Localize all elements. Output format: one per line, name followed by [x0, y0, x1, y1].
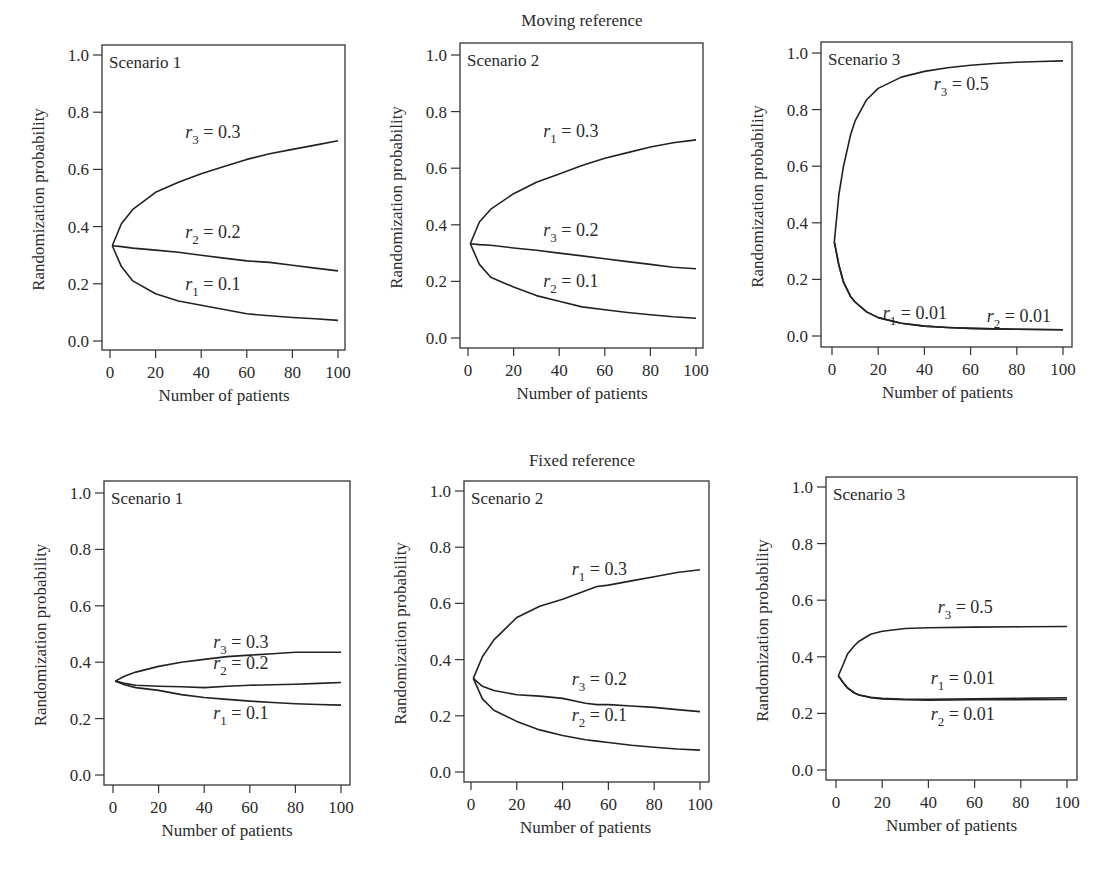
y-tick-label: 0.8 [792, 535, 813, 554]
curve-label-r2: r2 = 0.01 [987, 306, 1051, 331]
y-tick-label: 0.2 [70, 710, 91, 729]
y-tick-label: 0.4 [68, 218, 90, 237]
y-tick-label: 0.2 [792, 704, 813, 723]
x-tick-label: 0 [106, 363, 115, 382]
x-tick-label: 40 [554, 795, 571, 814]
x-tick-label: 80 [646, 795, 663, 814]
curve-label-r1: r1 = 0.1 [213, 703, 268, 728]
y-tick-label: 0.0 [426, 329, 447, 348]
curve-label-r3: r3 = 0.2 [543, 220, 598, 245]
scenario-label: Scenario 1 [109, 53, 181, 72]
figure-svg: Moving reference Fixed reference 0.00.20… [0, 0, 1110, 879]
y-tick-label: 0.0 [70, 766, 91, 785]
curve-r1 [473, 570, 700, 679]
chart-panel-4: 0.00.20.40.60.81.0020406080100Number of … [31, 481, 354, 840]
y-tick-label: 0.0 [792, 761, 813, 780]
curve-label-r1: r1 = 0.01 [931, 668, 995, 693]
x-tick-label: 20 [874, 793, 891, 812]
y-axis-title: Randomization probability [31, 543, 50, 726]
x-axis-title: Number of patients [161, 821, 292, 840]
x-tick-label: 40 [551, 361, 568, 380]
y-axis-title: Randomization probability [387, 106, 406, 289]
scenario-label: Scenario 2 [467, 51, 539, 70]
x-tick-label: 0 [467, 795, 476, 814]
row-title-fixed-reference: Fixed reference [529, 451, 635, 470]
curve-label-r2: r2 = 0.1 [572, 705, 627, 730]
x-tick-label: 80 [287, 798, 304, 817]
curve-label-r3: r3 = 0.2 [572, 669, 627, 694]
plot-frame [102, 45, 345, 350]
y-tick-label: 0.6 [426, 159, 447, 178]
curve-r2 [112, 246, 338, 271]
y-tick-label: 1.0 [430, 482, 451, 501]
y-tick-label: 1.0 [70, 484, 91, 503]
y-tick-label: 0.4 [430, 651, 452, 670]
x-tick-label: 60 [600, 795, 617, 814]
y-tick-label: 0.6 [68, 160, 89, 179]
y-tick-label: 1.0 [426, 46, 447, 65]
y-tick-label: 0.2 [787, 270, 808, 289]
x-tick-label: 40 [920, 793, 937, 812]
curve-label-r1: r1 = 0.3 [572, 559, 627, 584]
y-axis-title: Randomization probability [29, 108, 48, 291]
y-tick-label: 0.8 [68, 103, 89, 122]
x-axis-title: Number of patients [520, 818, 651, 837]
x-tick-label: 60 [962, 360, 979, 379]
x-tick-label: 100 [325, 363, 351, 382]
y-tick-label: 0.0 [430, 763, 451, 782]
x-tick-label: 60 [596, 361, 613, 380]
curve-label-r3: r3 = 0.3 [185, 122, 240, 147]
y-tick-label: 0.6 [792, 591, 813, 610]
y-tick-label: 0.8 [430, 538, 451, 557]
y-tick-label: 0.6 [70, 597, 91, 616]
panels: 0.00.20.40.60.81.0020406080100Number of … [29, 42, 1080, 840]
x-axis-title: Number of patients [882, 383, 1013, 402]
y-tick-label: 0.4 [70, 653, 92, 672]
x-tick-label: 100 [1054, 793, 1080, 812]
curve-label-r2: r2 = 0.01 [931, 704, 995, 729]
x-axis-title: Number of patients [886, 816, 1017, 835]
plot-frame [826, 477, 1077, 780]
y-axis-title: Randomization probability [748, 105, 767, 288]
curve-r3 [470, 244, 696, 269]
chart-panel-1: 0.00.20.40.60.81.0020406080100Number of … [29, 45, 351, 405]
x-tick-label: 20 [870, 360, 887, 379]
y-tick-label: 0.4 [426, 216, 448, 235]
x-tick-label: 40 [196, 798, 213, 817]
scenario-label: Scenario 3 [833, 485, 905, 504]
curve-label-r1: r1 = 0.3 [543, 121, 598, 146]
x-tick-label: 100 [687, 795, 713, 814]
y-tick-label: 0.6 [787, 157, 808, 176]
x-tick-label: 40 [916, 360, 933, 379]
curve-r1 [115, 681, 341, 705]
row-title-moving-reference: Moving reference [521, 11, 642, 30]
figure-grid: Moving reference Fixed reference 0.00.20… [0, 0, 1110, 879]
y-tick-label: 0.0 [68, 332, 89, 351]
y-tick-label: 0.8 [70, 540, 91, 559]
y-tick-label: 1.0 [792, 478, 813, 497]
y-tick-label: 1.0 [787, 44, 808, 63]
y-tick-label: 0.8 [426, 103, 447, 122]
y-tick-label: 0.4 [792, 648, 814, 667]
curve-label-r3: r3 = 0.5 [934, 74, 989, 99]
chart-panel-2: 0.00.20.40.60.81.0020406080100Number of … [387, 43, 709, 403]
scenario-label: Scenario 3 [828, 50, 900, 69]
x-tick-label: 80 [642, 361, 659, 380]
x-tick-label: 0 [828, 360, 837, 379]
x-tick-label: 100 [1050, 360, 1076, 379]
y-tick-label: 0.2 [426, 272, 447, 291]
x-tick-label: 80 [1012, 793, 1029, 812]
plot-frame [464, 481, 709, 782]
y-tick-label: 0.4 [787, 214, 809, 233]
x-tick-label: 0 [109, 798, 118, 817]
y-tick-label: 0.2 [68, 275, 89, 294]
x-tick-label: 0 [832, 793, 841, 812]
chart-panel-5: 0.00.20.40.60.81.0020406080100Number of … [391, 481, 713, 837]
scenario-label: Scenario 2 [471, 489, 543, 508]
x-axis-title: Number of patients [158, 386, 289, 405]
x-tick-label: 0 [464, 361, 473, 380]
x-tick-label: 100 [328, 798, 354, 817]
curve-label-r2: r2 = 0.2 [185, 222, 240, 247]
x-tick-label: 40 [193, 363, 210, 382]
x-tick-label: 80 [1008, 360, 1025, 379]
